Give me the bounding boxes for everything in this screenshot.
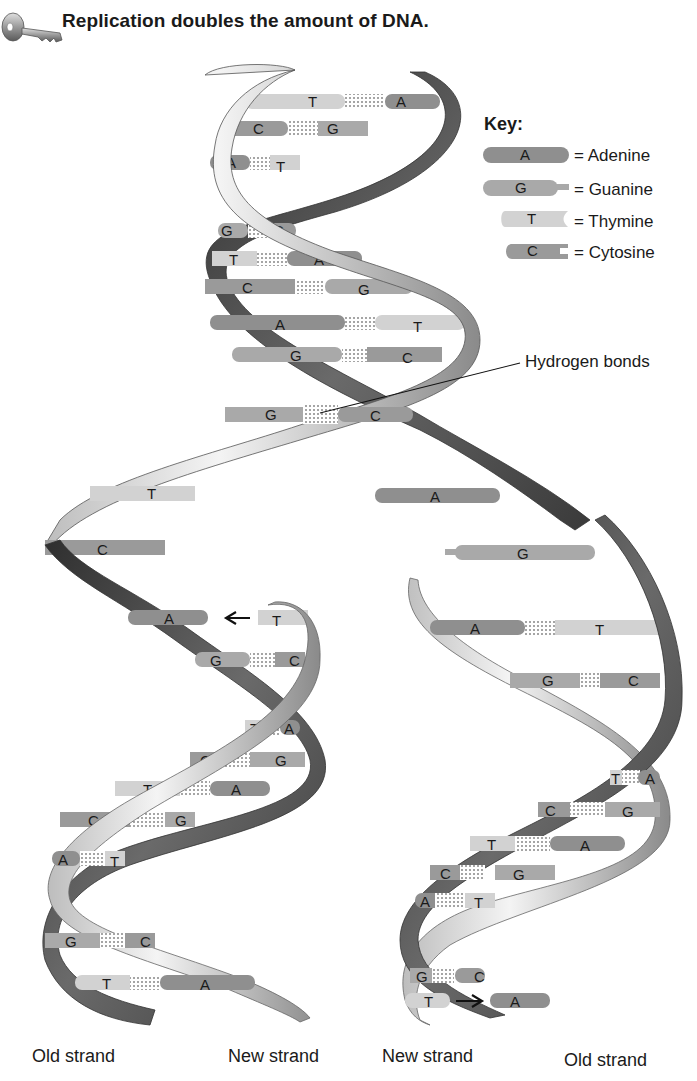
svg-text:A: A [164,610,174,627]
strand-label-old-left: Old strand [32,1046,115,1067]
parent-backbone-back [206,72,590,530]
svg-text:T: T [487,836,496,853]
svg-text:A: A [430,488,440,505]
key-heading: Key: [484,114,523,135]
svg-text:A: A [200,976,210,993]
svg-text:T: T [110,853,119,870]
svg-text:A: A [58,851,68,868]
svg-text:G: G [265,406,277,423]
left-daughter-helix: A T GC TA CG TA CG AT GC TA [43,540,326,1025]
svg-text:C: C [140,933,151,950]
key-label-thymine: = Thymine [574,212,654,232]
svg-text:T: T [308,93,317,110]
svg-text:C: C [440,865,451,882]
base-pair-8: G C [232,347,442,366]
svg-text:T: T [102,975,111,992]
base-pair-9: G C [225,404,413,424]
svg-text:G: G [517,545,529,562]
svg-text:G: G [542,672,554,689]
unpaired-bases: T C A G [45,485,595,562]
hydrogen-bonds-label: Hydrogen bonds [525,352,650,372]
svg-text:A: A [396,93,406,110]
svg-text:C: C [545,802,556,819]
left-pair-1: GC [195,652,305,669]
right-pair-5: TA [470,836,625,854]
svg-text:T: T [527,210,536,227]
svg-text:A: A [231,781,241,798]
svg-text:A: A [420,893,430,910]
svg-text:A: A [580,837,590,854]
svg-text:C: C [628,672,639,689]
strand-label-new-left: New strand [228,1046,319,1067]
svg-text:A: A [510,993,520,1010]
svg-text:C: C [97,541,108,558]
svg-text:G: G [210,652,222,669]
svg-text:G: G [290,347,302,364]
svg-text:T: T [276,158,285,175]
svg-text:G: G [275,752,287,769]
right-new-strand [403,578,670,1025]
parent-base-pairs: T A C G A T G C T A [205,93,465,366]
svg-text:C: C [402,349,413,366]
svg-text:A: A [470,620,480,637]
key-label-guanine: = Guanine [574,180,653,200]
svg-text:G: G [416,968,428,985]
base-pair-1: T A [245,93,440,110]
svg-text:T: T [424,993,433,1010]
parent-helix [206,72,590,530]
base-pair-2: C G [220,120,368,137]
right-daughter-helix: AT GC TA CG TA CG AT GC T A [400,515,682,1025]
svg-text:G: G [327,120,339,137]
svg-text:G: G [515,179,527,196]
svg-text:G: G [358,281,370,298]
right-pair-7: AT [415,893,495,911]
key-swatches: A G T C [483,146,569,259]
svg-text:C: C [474,968,485,985]
svg-text:T: T [272,612,281,629]
right-pair-1: AT [430,620,660,638]
svg-text:T: T [229,251,238,268]
right-pair-3: TA [610,770,660,787]
strand-label-old-right: Old strand [564,1050,647,1071]
right-pair-6: CG [430,865,555,883]
svg-text:A: A [645,770,655,787]
svg-text:T: T [474,894,483,911]
svg-text:T: T [147,485,156,502]
svg-text:G: G [221,222,233,239]
right-pair-8: GC [410,968,485,985]
svg-text:T: T [611,770,620,787]
left-pair-7: GC [45,933,155,950]
svg-text:C: C [527,242,538,259]
svg-text:G: G [175,812,187,829]
svg-text:G: G [513,866,525,883]
svg-text:T: T [595,621,604,638]
svg-text:C: C [253,120,264,137]
base-pair-6: C G [205,279,413,298]
svg-text:G: G [622,803,634,820]
svg-text:A: A [520,146,530,163]
strand-label-new-right: New strand [382,1046,473,1067]
right-pair-2: GC [510,672,660,689]
svg-text:C: C [242,279,253,296]
key-label-adenine: = Adenine [574,146,650,166]
svg-text:C: C [370,407,381,424]
svg-text:G: G [65,933,77,950]
arrow-left-icon [226,612,250,624]
svg-text:C: C [289,652,300,669]
svg-text:T: T [413,318,422,335]
left-pair-8: TA [75,975,255,993]
svg-text:A: A [275,316,285,333]
key-label-cytosine: = Cytosine [574,243,655,263]
